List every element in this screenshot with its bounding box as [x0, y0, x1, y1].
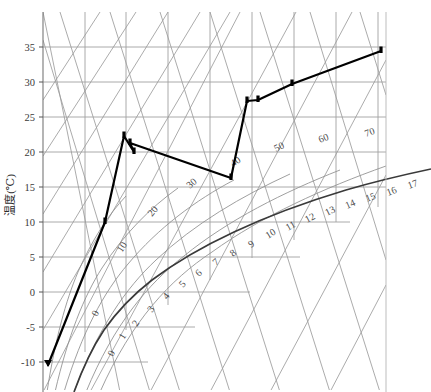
- y-axis-title: 温度(℃): [3, 174, 17, 216]
- series-point-marker: [290, 80, 293, 87]
- y-tick-label: 0: [30, 287, 35, 298]
- series-point-marker: [132, 148, 135, 155]
- y-tick-label: 15: [25, 182, 36, 193]
- y-tick-label: 25: [25, 112, 36, 123]
- y-tick-label: -5: [26, 322, 35, 333]
- y-tick-label: 20: [25, 147, 36, 158]
- y-tick-label: 5: [30, 252, 35, 263]
- series-point-marker: [103, 218, 106, 225]
- y-tick-label: -10: [21, 357, 35, 368]
- series-point-marker: [122, 132, 125, 139]
- y-tick-label: 10: [25, 217, 36, 228]
- series-point-marker: [128, 139, 131, 146]
- chart-canvas: 35 30 25 20 15 10 5 0 -5 -10 温度(℃) 0 10 …: [0, 0, 431, 392]
- series-point-marker: [256, 96, 259, 103]
- y-tick-label: 35: [25, 42, 36, 53]
- series-point-marker: [379, 47, 382, 54]
- psychrometric-chart: 35 30 25 20 15 10 5 0 -5 -10 温度(℃) 0 10 …: [0, 0, 431, 392]
- series-point-marker: [229, 174, 232, 181]
- y-tick-label: 30: [25, 77, 36, 88]
- series-point-marker: [245, 97, 248, 104]
